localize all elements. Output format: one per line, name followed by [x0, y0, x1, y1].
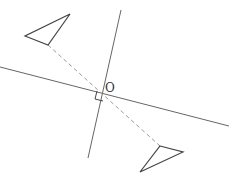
center-label: O — [105, 81, 115, 95]
triangle-original — [25, 14, 70, 45]
triangle-image — [140, 146, 183, 172]
dashed-connector — [48, 45, 160, 146]
symmetry-diagram: O — [0, 0, 232, 178]
axis-line — [0, 67, 229, 126]
